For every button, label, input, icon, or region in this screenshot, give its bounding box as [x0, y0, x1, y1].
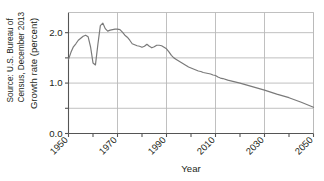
gridlines	[69, 13, 314, 134]
axis-ticks	[65, 33, 314, 137]
plot-frame	[69, 13, 314, 134]
y-tick-labels: 0.01.02.0	[49, 27, 62, 139]
line-chart-plot: 0.01.02.0 195019701990201020302050	[0, 0, 324, 181]
x-tick-labels: 195019701990201020302050	[47, 134, 315, 157]
data-series	[69, 23, 314, 107]
y-tick-label: 2.0	[49, 27, 62, 38]
y-tick-label: 1.0	[49, 77, 62, 88]
x-tick-label: 1990	[145, 134, 168, 157]
x-tick-label: 2010	[194, 134, 217, 157]
series-line	[69, 23, 314, 107]
x-tick-label: 2050	[292, 134, 315, 157]
x-tick-label: 1970	[96, 134, 119, 157]
chart-figure: Source: U.S. Bureau of Census, December …	[0, 0, 324, 181]
x-tick-label: 2030	[243, 134, 266, 157]
